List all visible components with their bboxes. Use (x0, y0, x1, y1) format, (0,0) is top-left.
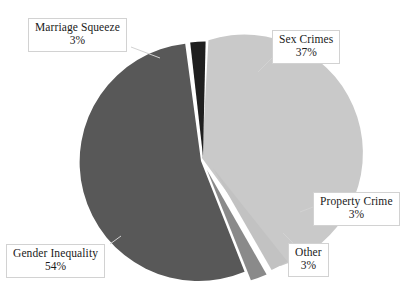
slice-label-percent: 3% (295, 259, 322, 272)
slice-label-sex-crimes[interactable]: Sex Crimes 37% (272, 30, 340, 64)
slice-label-name: Marriage Squeeze (35, 21, 120, 34)
slice-label-percent: 54% (13, 260, 98, 273)
slice-label-other[interactable]: Other 3% (288, 243, 329, 277)
slice-label-name: Gender Inequality (13, 247, 98, 260)
slice-label-percent: 3% (320, 208, 393, 221)
slice-label-percent: 3% (35, 34, 120, 47)
slice-label-name: Other (295, 246, 322, 259)
slice-label-gender-inequality[interactable]: Gender Inequality 54% (6, 244, 105, 278)
slice-label-percent: 37% (279, 46, 333, 59)
pie-chart-figure: Marriage Squeeze 3% Sex Crimes 37% Prope… (0, 0, 415, 302)
slice-label-name: Sex Crimes (279, 33, 333, 46)
slice-label-property-crime[interactable]: Property Crime 3% (313, 192, 400, 226)
slice-label-marriage-squeeze[interactable]: Marriage Squeeze 3% (28, 18, 127, 52)
cropped-caption-fragment (0, 292, 415, 302)
slice-label-name: Property Crime (320, 195, 393, 208)
